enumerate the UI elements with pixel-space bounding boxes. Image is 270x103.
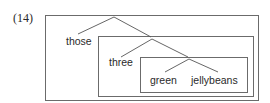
branch-root-right — [114, 17, 151, 37]
branch-inner-left — [165, 59, 189, 72]
example-number: (14) — [13, 11, 33, 25]
branch-root-left — [78, 17, 114, 34]
leaf-jellybeans: jellybeans — [190, 74, 238, 86]
branch-middle-left — [121, 39, 152, 57]
leaf-green: green — [150, 74, 177, 86]
branch-middle-right — [152, 39, 188, 57]
leaf-those: those — [66, 35, 92, 47]
nested-constituency-diagram: (14) those three green jellybeans — [0, 0, 270, 103]
leaf-three: three — [109, 56, 133, 68]
branch-inner-right — [189, 59, 218, 72]
